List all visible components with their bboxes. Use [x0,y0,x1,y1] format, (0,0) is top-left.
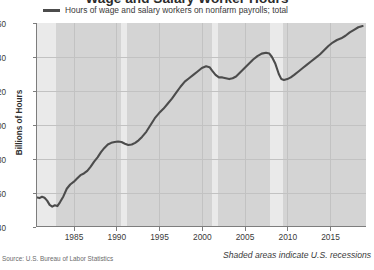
y-tick-label: 180 [0,156,6,165]
y-tick-label: 200 [0,122,6,131]
x-tick-mark [245,227,246,231]
y-axis-line [36,23,37,227]
y-tick-label: 140 [0,224,6,233]
x-tick-mark [287,227,288,231]
y-axis-title: Billions of Hours [15,68,24,178]
y-tick-label: 220 [0,88,6,97]
y-tick-label: 240 [0,54,6,63]
y-tick-label: 260 [0,20,6,29]
x-tick-label: 2000 [182,232,222,242]
series-line-chart [36,23,366,227]
plot-area [36,23,366,227]
chart-container: Wage and Salary Worker Hours Hours of wa… [0,0,374,270]
x-tick-mark [74,227,75,231]
x-tick-label: 2015 [311,232,351,242]
x-tick-label: 2005 [225,232,265,242]
source-note: Source: U.S. Bureau of Labor Statistics [2,255,113,262]
x-tick-label: 2010 [268,232,308,242]
x-tick-mark [116,227,117,231]
x-tick-label: 1995 [140,232,180,242]
y-tick-label: 160 [0,190,6,199]
y-tick-mark [33,227,36,228]
chart-legend: Hours of wage and salary workers on nonf… [43,5,288,15]
x-tick-label: 1985 [54,232,94,242]
recession-note: Shaded areas indicate U.S. recessions [223,250,371,260]
series-polyline [36,26,363,207]
legend-series-label: Hours of wage and salary workers on nonf… [65,5,288,15]
x-tick-mark [159,227,160,231]
x-tick-mark [202,227,203,231]
legend-line-swatch-icon [43,9,60,12]
x-tick-label: 1990 [97,232,137,242]
x-tick-mark [330,227,331,231]
